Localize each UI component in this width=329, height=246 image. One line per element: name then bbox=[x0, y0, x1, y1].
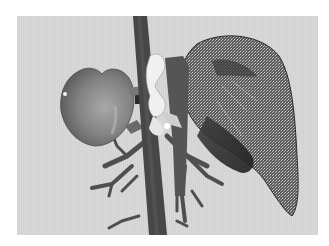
anatomy-render bbox=[17, 16, 318, 235]
render-viewport: 3d-anatomical-rendering bbox=[17, 16, 318, 235]
